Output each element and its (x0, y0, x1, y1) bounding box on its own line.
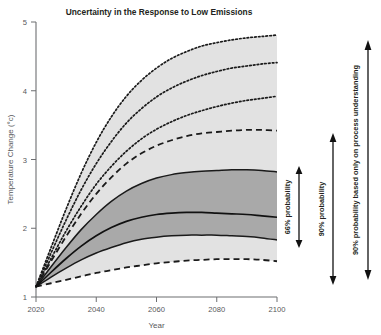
x-axis-label: Year (148, 321, 165, 330)
x-tick-label-2100: 2100 (269, 305, 286, 314)
y-tick-label-1: 1 (23, 293, 27, 302)
x-tick-label-2040: 2040 (88, 305, 105, 314)
arrow-head-up-90 (330, 133, 337, 142)
annotation-90: 90% probability (317, 133, 336, 285)
y-tick-label-5: 5 (23, 18, 27, 27)
x-tick-label-2060: 2060 (148, 305, 165, 314)
arrow-head-down-process (365, 270, 372, 280)
arrow-head-up-process (365, 40, 372, 50)
x-tick-label-2020: 2020 (28, 305, 45, 314)
y-tick-label-4: 4 (23, 87, 27, 96)
arrow-head-down-66 (296, 240, 303, 248)
y-axis-label: Temperature Change (°c) (6, 114, 15, 204)
arrow-head-down-90 (330, 276, 337, 285)
arrow-head-up-66 (296, 166, 303, 174)
y-tick-label-2: 2 (23, 224, 27, 233)
annotation-label-90: 90% probability (317, 181, 326, 237)
annotation-label-process: 90% probability based only on process un… (351, 64, 360, 255)
y-tick-label-3: 3 (23, 156, 27, 165)
chart-title: Uncertainty in the Response to Low Emiss… (66, 7, 253, 17)
x-tick-label-2080: 2080 (208, 305, 225, 314)
figure-container: Uncertainty in the Response to Low Emiss… (0, 0, 381, 335)
annotation-label-66: 66% probability (283, 179, 292, 235)
annotation-66: 66% probability (283, 166, 302, 248)
bands-group (36, 35, 277, 287)
uncertainty-chart: Uncertainty in the Response to Low Emiss… (0, 0, 381, 335)
annotation-process: 90% probability based only on process un… (351, 40, 371, 280)
